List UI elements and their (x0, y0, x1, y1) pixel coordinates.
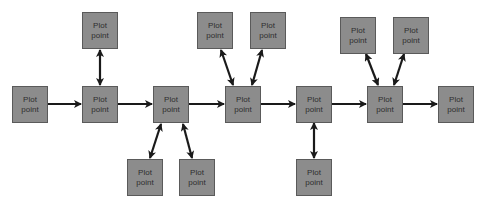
double-arrow-connector (221, 50, 233, 85)
node-label: Plot point (305, 95, 322, 115)
double-arrow-connector (394, 54, 404, 85)
double-arrow-connector (252, 50, 262, 85)
node-label: Plot point (305, 168, 322, 188)
node-label: Plot point (447, 95, 464, 115)
plot-point-node: Plot point (393, 17, 429, 54)
plot-point-node: Plot point (225, 86, 261, 123)
plot-point-node: Plot point (296, 86, 332, 123)
node-label: Plot point (349, 26, 366, 46)
plot-point-node: Plot point (197, 12, 233, 49)
plot-point-node: Plot point (82, 86, 118, 123)
node-label: Plot point (234, 95, 251, 115)
node-label: Plot point (91, 21, 108, 41)
plot-point-node: Plot point (179, 159, 215, 196)
plot-point-node: Plot point (367, 86, 403, 123)
plot-point-node: Plot point (438, 86, 474, 123)
node-label: Plot point (21, 95, 38, 115)
node-label: Plot point (91, 95, 108, 115)
node-label: Plot point (376, 95, 393, 115)
node-label: Plot point (188, 168, 205, 188)
plot-diagram-canvas: Plot pointPlot pointPlot pointPlot point… (0, 0, 482, 206)
node-label: Plot point (259, 21, 276, 41)
double-arrow-connector (183, 124, 192, 158)
plot-point-node: Plot point (127, 159, 163, 196)
node-label: Plot point (162, 95, 179, 115)
double-arrow-connector (150, 124, 161, 158)
node-label: Plot point (206, 21, 223, 41)
plot-point-node: Plot point (250, 12, 286, 49)
plot-point-node: Plot point (82, 12, 118, 49)
node-label: Plot point (402, 26, 419, 46)
node-label: Plot point (136, 168, 153, 188)
plot-point-node: Plot point (340, 17, 376, 54)
plot-point-node: Plot point (12, 86, 48, 123)
plot-point-node: Plot point (296, 159, 332, 196)
plot-point-node: Plot point (153, 86, 189, 123)
double-arrow-connector (366, 54, 378, 85)
